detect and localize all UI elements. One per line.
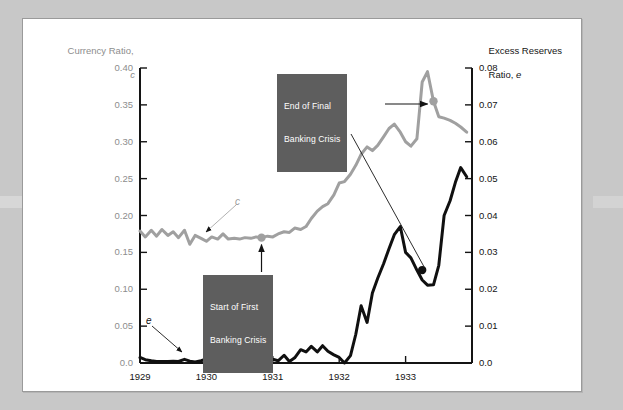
right-tick-label-6: 0.02 [479, 283, 513, 294]
marker-end-final-banking-crisis-e [418, 266, 426, 274]
left-tick-label-5: 0.15 [101, 246, 133, 257]
leader-end-of-final-crisis-to-e[interactable] [351, 134, 424, 267]
right-tick-label-4: 0.04 [479, 210, 513, 221]
annotation-end-of-final-banking-crisis: End of Final Banking Crisis [277, 74, 347, 172]
right-tick-label-3: 0.05 [479, 173, 513, 184]
left-tick-label-8: 0.0 [101, 357, 133, 368]
leader-series-label-c [206, 205, 236, 232]
right-tick-label-5: 0.03 [479, 246, 513, 257]
annotation-start-line1: Start of First [210, 302, 266, 313]
marker-end-final-banking-crisis-c [429, 97, 437, 105]
leader-series-label-e [152, 326, 182, 352]
left-tick-label-4: 0.20 [101, 210, 133, 221]
right-tick-label-8: 0.0 [479, 357, 513, 368]
left-tick-label-3: 0.25 [101, 173, 133, 184]
annotation-start-line2: Banking Crisis [210, 335, 266, 346]
x-tick-label-3: 1932 [319, 371, 359, 382]
annotation-end-line2: Banking Crisis [284, 134, 340, 145]
x-tick-label-4: 1933 [386, 371, 426, 382]
figure-root: Currency Ratio, c Excess Reserves Ratio,… [0, 0, 623, 410]
series-label-c: c [235, 196, 240, 207]
right-tick-label-2: 0.06 [479, 136, 513, 147]
left-tick-label-6: 0.10 [101, 283, 133, 294]
series-label-e: e [146, 315, 152, 326]
left-tick-label-1: 0.35 [101, 99, 133, 110]
right-tick-label-0: 0.08 [479, 62, 513, 73]
right-axis-title-symbol: e [516, 69, 521, 80]
annotation-end-line1: End of Final [284, 101, 340, 112]
right-tick-label-7: 0.01 [479, 320, 513, 331]
right-tick-label-1: 0.07 [479, 99, 513, 110]
left-tick-label-0: 0.40 [101, 62, 133, 73]
left-tick-label-7: 0.05 [101, 320, 133, 331]
series-line-e [140, 168, 467, 363]
left-axis-title-line1: Currency Ratio, [68, 45, 134, 56]
marker-start-first-banking-crisis-c [257, 233, 265, 241]
x-tick-label-0: 1929 [120, 371, 160, 382]
left-tick-label-2: 0.30 [101, 136, 133, 147]
annotation-start-of-first-banking-crisis: Start of First Banking Crisis [203, 275, 273, 373]
right-axis-title-line1: Excess Reserves [489, 45, 562, 56]
